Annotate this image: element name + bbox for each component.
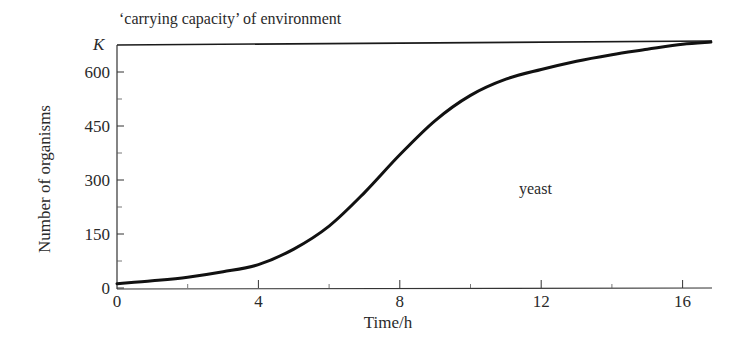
y-axis-title: Number of organisms [35, 105, 54, 253]
x-tick-label: 0 [113, 292, 122, 311]
logistic-growth-chart: ‘carrying capacity’ of environment K 015… [0, 0, 734, 352]
yeast-series-label: yeast [519, 180, 552, 198]
x-axis-title: Time/h [364, 313, 413, 332]
k-symbol-label: K [92, 35, 106, 54]
x-tick-label: 8 [396, 292, 405, 311]
y-ticks: 0150300450600 [85, 63, 125, 298]
x-axis [117, 288, 712, 289]
y-tick-label: 600 [85, 63, 111, 82]
x-ticks: 0481216 [113, 280, 691, 311]
carrying-capacity-caption: ‘carrying capacity’ of environment [119, 10, 342, 28]
y-tick-label: 150 [85, 225, 111, 244]
x-tick-label: 4 [254, 292, 263, 311]
y-tick-label: 450 [85, 117, 111, 136]
y-tick-label: 300 [85, 171, 111, 190]
carrying-capacity-line [117, 41, 712, 45]
x-tick-label: 12 [533, 292, 550, 311]
yeast-growth-curve [117, 42, 711, 284]
x-tick-label: 16 [674, 292, 691, 311]
y-tick-label: 0 [102, 279, 111, 298]
